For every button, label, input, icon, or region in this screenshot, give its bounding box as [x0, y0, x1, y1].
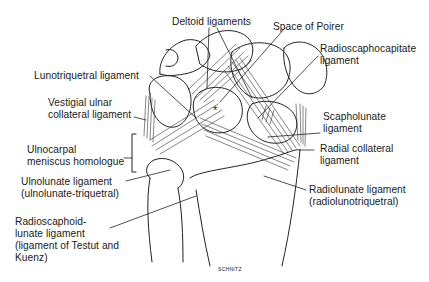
label-line: Kuenz)	[15, 252, 119, 264]
triquetrum-bone	[149, 76, 191, 128]
leader-radiolunate	[264, 176, 306, 190]
label-line: Radial collateral	[320, 143, 393, 155]
label-ulnolunate-ligament: Ulnolunate ligament (ulnolunate-triquetr…	[21, 176, 119, 200]
label-line: Radioscaphocapitate	[320, 43, 416, 55]
leader-poirer	[220, 28, 285, 102]
label-line: (ulnolunate-triquetral)	[21, 188, 119, 200]
lunate-bone	[193, 87, 242, 133]
label-radial-collateral-ligament: Radial collateral ligament	[320, 143, 393, 167]
pisiform-bone	[160, 40, 210, 76]
label-line: (ligament of Testut and	[15, 240, 119, 252]
label-line: Scapholunate	[323, 111, 386, 123]
ulna-bone	[148, 178, 183, 262]
leader-vuc	[134, 117, 146, 120]
label-text: Lunotriquetral ligament	[34, 70, 139, 81]
leader-rsl	[110, 196, 196, 228]
label-radioscaphocapitate-ligament: Radioscaphocapitate ligament	[320, 43, 416, 67]
label-radioscaphoid-lunate-ligament: Radioscaphoid- lunate ligament (ligament…	[15, 216, 119, 264]
label-line: (radiolunotriquetral)	[309, 196, 406, 208]
label-line: collateral ligament	[48, 109, 131, 121]
hamate-bone	[196, 31, 253, 72]
label-lunotriquetral-ligament: Lunotriquetral ligament	[34, 70, 139, 82]
label-vestigial-ulnar-collateral-ligament: Vestigial ulnar collateral ligament	[48, 97, 131, 121]
label-line: Radioscaphoid-	[15, 216, 119, 228]
leader-rsc	[258, 56, 318, 118]
label-line: Vestigial ulnar	[48, 97, 131, 109]
radius-bone	[196, 150, 300, 266]
label-radiolunate-ligament: Radiolunate ligament (radiolunotriquetra…	[309, 184, 406, 208]
label-deltoid-ligaments: Deltoid ligaments	[172, 16, 251, 28]
ulnocarpal-bracket	[132, 134, 136, 172]
label-line: lunate ligament	[15, 228, 119, 240]
label-ulnocarpal-meniscus-homologue: Ulnocarpal meniscus homologue	[27, 144, 124, 168]
label-line: meniscus homologue	[27, 156, 124, 168]
artist-signature: SCHNITZ	[218, 266, 242, 272]
label-line: Ulnolunate ligament	[21, 176, 119, 188]
label-space-of-poirer: Space of Poirer	[273, 21, 344, 33]
label-scapholunate-ligament: Scapholunate ligament	[323, 111, 386, 135]
label-line: ligament	[320, 155, 393, 167]
asterisk-marker: *	[213, 104, 217, 116]
label-line: Ulnocarpal	[27, 144, 124, 156]
label-text: Space of Poirer	[273, 21, 344, 32]
label-line: ligament	[320, 55, 416, 67]
leader-lunotriquetral	[150, 76, 196, 118]
label-line: Radiolunate ligament	[309, 184, 406, 196]
label-text: Deltoid ligaments	[172, 16, 251, 27]
label-line: ligament	[323, 123, 386, 135]
